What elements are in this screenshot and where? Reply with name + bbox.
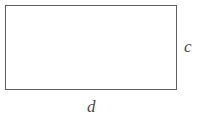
- figure-canvas: c d: [0, 0, 198, 128]
- rectangle-width-label-d: d: [87, 98, 96, 115]
- rectangle-shape: [5, 5, 177, 90]
- rectangle-height-label-c: c: [184, 38, 192, 55]
